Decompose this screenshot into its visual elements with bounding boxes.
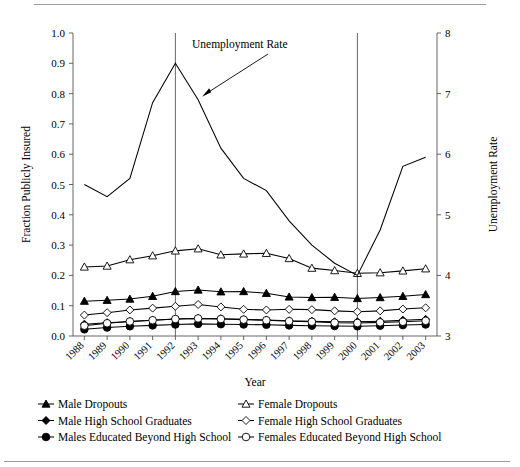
series-female-dropouts xyxy=(80,245,429,277)
legend-label: Female Dropouts xyxy=(258,398,338,411)
annotation-arrow-head xyxy=(202,88,211,97)
data-marker xyxy=(242,433,250,441)
data-marker xyxy=(217,315,225,323)
data-marker xyxy=(263,316,271,324)
x-tick-label: 1997 xyxy=(268,340,291,363)
legend-label: Female High School Graduates xyxy=(258,415,403,428)
series-male-dropouts xyxy=(80,286,429,304)
data-marker xyxy=(331,319,339,327)
legend-label: Males Educated Beyond High School xyxy=(58,431,231,444)
y-left-tick-label: 0.2 xyxy=(51,269,65,281)
x-tick-label: 1993 xyxy=(177,340,200,363)
x-tick-label: 1989 xyxy=(86,340,109,363)
y-left-axis-title: Fraction Publicly Insured xyxy=(20,126,33,243)
data-marker xyxy=(217,303,225,311)
series-line xyxy=(84,290,425,301)
y-left-tick-label: 0.6 xyxy=(51,148,65,160)
series-unemployment-rate xyxy=(84,63,425,275)
legend-item[interactable]: Males Educated Beyond High School xyxy=(38,431,231,444)
top-rule xyxy=(34,4,486,5)
legend-label: Male High School Graduates xyxy=(58,415,192,428)
data-marker xyxy=(80,311,88,319)
data-marker xyxy=(262,306,270,314)
x-tick-label: 2001 xyxy=(359,340,382,363)
data-marker xyxy=(103,309,111,317)
data-marker xyxy=(81,322,89,330)
legend-label: Females Educated Beyond High School xyxy=(258,431,441,444)
data-marker xyxy=(308,306,316,314)
y-left-tick-label: 0.7 xyxy=(51,118,65,130)
y-right-tick-label: 8 xyxy=(445,27,451,39)
figure-root: 0.00.10.20.30.40.50.60.70.80.91.03456781… xyxy=(0,0,520,467)
data-marker xyxy=(422,304,430,312)
bottom-rule xyxy=(4,461,510,462)
x-tick-label: 1994 xyxy=(200,339,223,362)
legend-item[interactable]: Male Dropouts xyxy=(38,398,128,411)
y-right-tick-label: 5 xyxy=(445,209,451,221)
y-right-axis-title: Unemployment Rate xyxy=(487,137,500,233)
data-marker xyxy=(194,245,202,252)
data-marker xyxy=(149,304,157,312)
y-right-tick-label: 7 xyxy=(445,88,451,100)
data-marker xyxy=(422,317,430,325)
x-tick-label: 1991 xyxy=(131,340,154,363)
data-marker xyxy=(422,265,430,272)
x-tick-label: 1999 xyxy=(313,340,336,363)
y-left-tick-label: 0.8 xyxy=(51,88,65,100)
data-marker xyxy=(42,417,50,425)
data-marker xyxy=(399,318,407,326)
series-line xyxy=(84,63,425,275)
annotation-label: Unemployment Rate xyxy=(192,38,288,51)
data-marker xyxy=(376,307,384,315)
x-axis-title: Year xyxy=(244,376,265,388)
legend-label: Male Dropouts xyxy=(58,398,128,411)
data-marker xyxy=(240,305,248,313)
legend-item[interactable]: Male High School Graduates xyxy=(38,415,192,428)
annotation-arrow-line xyxy=(206,54,268,94)
y-right-tick-label: 6 xyxy=(445,148,451,160)
x-tick-label: 1992 xyxy=(154,340,177,363)
data-marker xyxy=(422,290,430,297)
data-marker xyxy=(285,317,293,325)
series-line xyxy=(84,304,425,315)
x-tick-label: 1990 xyxy=(109,340,132,363)
data-marker xyxy=(126,306,134,314)
data-marker xyxy=(331,307,339,315)
x-tick-label: 1988 xyxy=(63,340,86,363)
legend-item[interactable]: Females Educated Beyond High School xyxy=(238,431,441,444)
data-marker xyxy=(171,302,179,310)
data-marker xyxy=(242,417,250,425)
data-marker xyxy=(285,305,293,313)
data-marker xyxy=(308,318,316,326)
x-tick-label: 2002 xyxy=(382,340,405,363)
data-marker xyxy=(308,264,316,271)
legend-item[interactable]: Female High School Graduates xyxy=(238,415,403,428)
data-marker xyxy=(172,315,180,323)
x-tick-label: 2003 xyxy=(404,340,427,363)
data-marker xyxy=(240,316,248,324)
x-tick-label: 1995 xyxy=(222,340,245,363)
legend-item[interactable]: Female Dropouts xyxy=(238,398,338,411)
data-marker xyxy=(149,316,157,324)
data-marker xyxy=(399,305,407,313)
data-marker xyxy=(194,286,202,293)
series-line xyxy=(84,324,425,329)
data-marker xyxy=(194,300,202,308)
y-left-tick-label: 0.0 xyxy=(51,330,65,342)
x-tick-label: 1998 xyxy=(291,340,314,363)
x-tick-label: 1996 xyxy=(245,340,268,363)
y-left-tick-label: 1.0 xyxy=(51,27,65,39)
y-right-tick-label: 3 xyxy=(445,330,451,342)
series-female-high-school-graduates xyxy=(80,300,429,319)
series-line xyxy=(84,249,425,274)
y-left-tick-label: 0.4 xyxy=(51,209,65,221)
x-tick-label: 2000 xyxy=(336,340,359,363)
y-left-tick-label: 0.9 xyxy=(51,57,65,69)
y-left-tick-label: 0.3 xyxy=(51,239,65,251)
data-marker xyxy=(42,433,50,441)
data-marker xyxy=(126,318,134,326)
data-marker xyxy=(353,308,361,316)
y-right-tick-label: 4 xyxy=(445,269,451,281)
data-marker xyxy=(376,319,384,327)
data-marker xyxy=(103,319,111,327)
